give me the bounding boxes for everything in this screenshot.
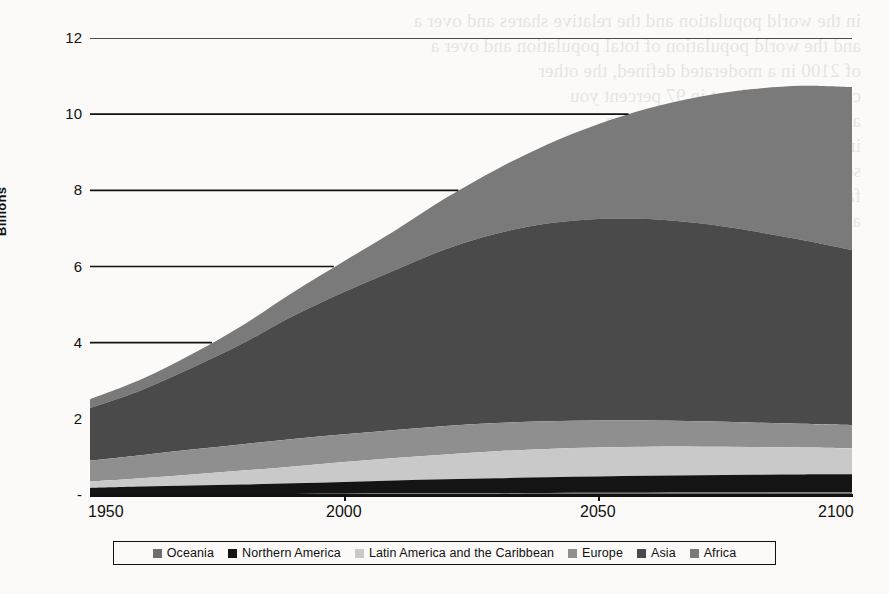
legend-item-label: Oceania [167, 547, 214, 560]
legend-item-label: Northern America [242, 547, 341, 560]
y-tick-label-4: 4 [44, 335, 82, 350]
x-tick-label-1950: 1950 [88, 503, 124, 521]
legend-swatch-icon [690, 549, 699, 558]
legend-item-label: Asia [651, 547, 676, 560]
legend-swatch-icon [153, 549, 162, 558]
legend-item-asia[interactable]: Asia [637, 547, 676, 560]
legend-item-label: Europe [582, 547, 623, 560]
legend-item-europe[interactable]: Europe [568, 547, 623, 560]
legend-swatch-icon [568, 549, 577, 558]
x-tick-mark-2050 [598, 494, 600, 501]
x-tick-label-2000: 2000 [326, 503, 362, 521]
y-tick-label-12: 12 [44, 30, 82, 45]
x-tick-mark-2000 [344, 494, 346, 501]
legend-swatch-icon [355, 549, 364, 558]
x-axis-tick-labels: 1950200020502100 [0, 503, 889, 529]
population-stacked-area-figure: Billions -24681012 1950200020502100 Ocea… [0, 0, 889, 594]
area-series-group [90, 86, 852, 495]
legend-swatch-icon [228, 549, 237, 558]
legend-item-label: Latin America and the Caribbean [369, 547, 554, 560]
legend-item-africa[interactable]: Africa [690, 547, 737, 560]
y-axis-title: Billions [0, 187, 9, 236]
legend-item-label: Africa [704, 547, 737, 560]
y-axis-tick-labels: -24681012 [38, 0, 82, 530]
y-tick-label-6: 6 [44, 259, 82, 274]
chart-legend: OceaniaNorthern AmericaLatin America and… [113, 541, 776, 565]
stacked-area-svg [90, 38, 852, 495]
y-tick-label-8: 8 [44, 182, 82, 197]
legend-item-latin-america-and-the-caribbean[interactable]: Latin America and the Caribbean [355, 547, 554, 560]
y-tick-label-10: 10 [44, 106, 82, 121]
y-tick-label-2: 2 [44, 411, 82, 426]
plot-wrapper: Billions -24681012 1950200020502100 [0, 0, 889, 530]
y-tick-label-0: - [44, 487, 82, 502]
x-tick-label-2100: 2100 [818, 503, 854, 521]
legend-swatch-icon [637, 549, 646, 558]
plot-area [90, 38, 852, 495]
legend-item-northern-america[interactable]: Northern America [228, 547, 341, 560]
x-tick-label-2050: 2050 [580, 503, 616, 521]
legend-item-oceania[interactable]: Oceania [153, 547, 214, 560]
x-axis-line [90, 494, 853, 497]
